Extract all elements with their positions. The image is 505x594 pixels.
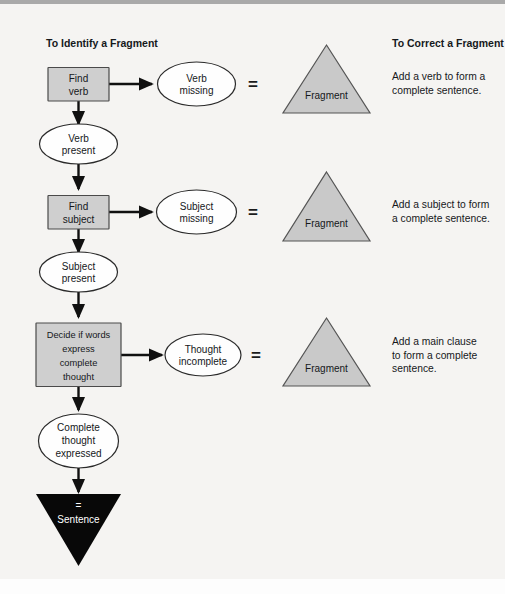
correction-1-line1: Add a verb to form a	[392, 71, 486, 82]
node-verb-missing[interactable]: Verb missing	[158, 62, 236, 106]
heading-identify-fragment: To Identify a Fragment	[46, 37, 158, 49]
equals-sign-1: =	[248, 75, 258, 94]
node-sentence-equals: =	[76, 500, 82, 511]
node-sentence-label: Sentence	[57, 514, 100, 525]
node-find-subject-line1: Find	[69, 201, 88, 212]
heading-correct-fragment: To Correct a Fragment	[392, 37, 504, 49]
equals-sign-2: =	[248, 203, 258, 222]
correction-1-line2: complete sentence.	[392, 85, 481, 96]
node-fragment-2-label: Fragment	[305, 218, 348, 229]
node-subject-missing-line1: Subject	[180, 201, 214, 212]
node-fragment-3[interactable]: Fragment	[283, 318, 370, 386]
node-fragment-1-label: Fragment	[305, 90, 348, 101]
node-thought-incomplete-line2: incomplete	[179, 356, 228, 367]
node-fragment-3-label: Fragment	[305, 363, 348, 374]
correction-3-line1: Add a main clause	[392, 336, 477, 347]
node-subject-missing[interactable]: Subject missing	[157, 190, 237, 234]
node-verb-present-line1: Verb	[68, 133, 89, 144]
node-complete-thought-line2: thought	[62, 435, 96, 446]
node-find-verb-line1: Find	[69, 73, 88, 84]
node-verb-missing-line1: Verb	[186, 73, 207, 84]
node-decide-thought[interactable]: Decide if words express complete thought	[36, 323, 121, 387]
node-find-verb[interactable]: Find verb	[48, 68, 109, 102]
node-fragment-2[interactable]: Fragment	[283, 172, 370, 241]
correction-2-line2: a complete sentence.	[392, 213, 490, 224]
node-complete-thought-line1: Complete	[57, 422, 100, 433]
node-find-subject[interactable]: Find subject	[48, 196, 109, 230]
node-subject-present[interactable]: Subject present	[40, 252, 118, 292]
node-find-verb-line2: verb	[69, 86, 89, 97]
node-decide-line3: complete	[60, 358, 98, 368]
node-thought-incomplete[interactable]: Thought incomplete	[165, 334, 241, 376]
node-find-subject-line2: subject	[63, 214, 95, 225]
node-decide-line1: Decide if words	[47, 330, 111, 340]
node-thought-incomplete-line1: Thought	[185, 344, 222, 355]
node-subject-present-line2: present	[62, 273, 96, 284]
node-verb-present[interactable]: Verb present	[40, 124, 118, 164]
diagram-page: To Identify a Fragment To Correct a Frag…	[0, 0, 505, 594]
correction-3-line3: sentence.	[392, 363, 437, 374]
node-verb-present-line2: present	[62, 145, 96, 156]
node-sentence[interactable]: = Sentence	[36, 494, 121, 566]
correction-2-line1: Add a subject to form	[392, 199, 489, 210]
node-verb-missing-line2: missing	[180, 85, 214, 96]
correction-3-line2: to form a complete	[392, 350, 478, 361]
node-complete-thought-line3: expressed	[55, 448, 101, 459]
fragment-flowchart: To Identify a Fragment To Correct a Frag…	[0, 0, 505, 594]
node-decide-line2: express	[62, 344, 95, 354]
node-complete-thought[interactable]: Complete thought expressed	[39, 414, 119, 468]
equals-sign-3: =	[251, 346, 261, 365]
node-subject-present-line1: Subject	[62, 261, 96, 272]
node-decide-line4: thought	[63, 372, 94, 382]
node-subject-missing-line2: missing	[180, 213, 214, 224]
node-fragment-1[interactable]: Fragment	[283, 45, 370, 113]
